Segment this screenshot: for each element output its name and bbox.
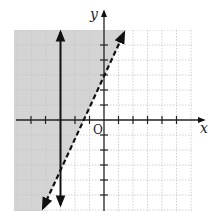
y-axis-label: y (89, 6, 99, 22)
origin-label: O (93, 123, 103, 137)
coordinate-plane: y x O (0, 0, 219, 211)
x-axis-label: x (200, 120, 208, 136)
